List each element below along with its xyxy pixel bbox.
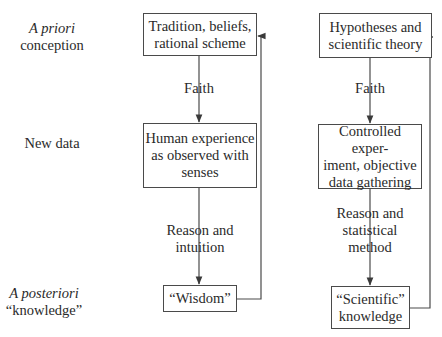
edge-label-right-faith: Faith — [350, 80, 390, 97]
diagram-canvas: A priori conception New data A posterior… — [0, 0, 442, 337]
box-controlled-experiment: Controlled exper- iment, objective data … — [318, 124, 422, 189]
box-tradition-beliefs: Tradition, beliefs, rational scheme — [143, 13, 257, 56]
row-label-a-posteriori: A posteriori “knowledge” — [2, 285, 86, 319]
row-label-new-data: New data — [12, 135, 92, 152]
box-human-experience: Human experience as observed with senses — [143, 123, 257, 188]
row-label-a-priori: A priori conception — [12, 20, 92, 54]
edge-label-left-reason: Reason and intuition — [160, 222, 240, 256]
box-hypotheses-theory: Hypotheses and scientific theory — [319, 13, 432, 58]
box-wisdom: “Wisdom” — [163, 285, 237, 312]
edge-label-right-reason: Reason and statistical method — [330, 205, 410, 256]
box-scientific-knowledge: “Scientific” knowledge — [331, 286, 410, 329]
edge-label-left-faith: Faith — [179, 80, 219, 97]
